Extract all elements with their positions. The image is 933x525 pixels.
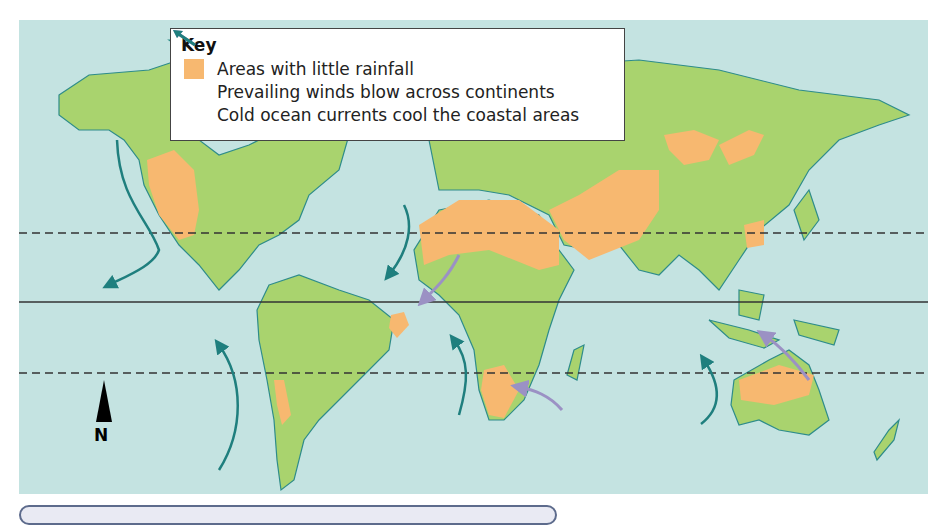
key-title: Key [181,35,624,55]
world-map: Key Areas with little rainfall Prevailin… [19,20,928,494]
borneo [739,290,764,320]
indonesia [709,320,779,348]
key-item-dry-areas: Areas with little rainfall [181,57,624,80]
map-key: Key Areas with little rainfall Prevailin… [170,28,625,141]
caption-box [19,505,557,525]
purple-arrow-icon [181,82,207,102]
new-guinea [794,320,839,345]
teal-arrow-icon [181,105,207,125]
key-item-currents: Cold ocean currents cool the coastal are… [181,103,624,126]
compass-label: N [94,425,108,445]
key-label: Cold ocean currents cool the coastal are… [217,105,579,125]
new-zealand [874,420,899,460]
key-label: Areas with little rainfall [217,59,414,79]
key-item-winds: Prevailing winds blow across continents [181,80,624,103]
orange-swatch-icon [181,59,207,79]
madagascar [567,345,584,380]
key-label: Prevailing winds blow across continents [217,82,555,102]
